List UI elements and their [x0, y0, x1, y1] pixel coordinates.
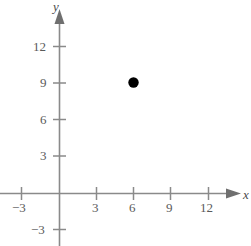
y-tick-label-minus3: −3	[31, 223, 45, 236]
x-tick-label-12: 12	[200, 201, 213, 214]
x-axis-arrowhead	[226, 189, 241, 199]
x-axis-label: x	[243, 188, 249, 201]
data-point	[128, 77, 138, 87]
y-tick-label-6: 6	[40, 113, 47, 126]
x-tick-label-minus3: −3	[12, 201, 26, 214]
x-tick-label-6: 6	[129, 201, 136, 214]
y-tick-label-9: 9	[40, 76, 47, 89]
y-tick-label-12: 12	[33, 40, 46, 53]
y-tick-label-3: 3	[40, 149, 47, 162]
graph-canvas	[0, 0, 251, 246]
y-axis-label: y	[53, 0, 59, 13]
x-tick-label-9: 9	[166, 201, 173, 214]
x-tick-label-3: 3	[92, 201, 99, 214]
coordinate-plane-graph: −3 3 6 9 12 12 9 6 3 −3 y x	[0, 0, 251, 246]
